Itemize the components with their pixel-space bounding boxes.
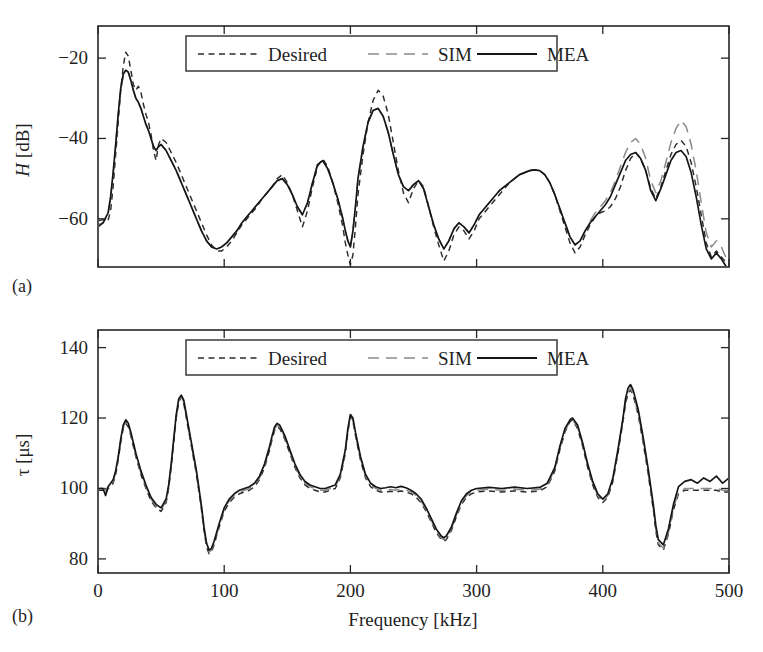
legend-panel-b: Desired SIM MEA — [186, 340, 590, 375]
panel-b-x-tick-labels: 0100200300400500 — [93, 580, 743, 601]
panel-b-tag: (b) — [12, 606, 33, 627]
y-tick-label: −60 — [58, 208, 88, 229]
panel-b-y-tick-labels: 80100120140 — [60, 337, 89, 569]
y-tick-label: 100 — [60, 477, 89, 498]
legend-a-label-sim: SIM — [438, 44, 472, 65]
legend-a-label-desired: Desired — [268, 44, 328, 65]
panel-a-y-tick-labels: −20−40−60 — [58, 47, 88, 229]
panel-b-group: 80100120140 0100200300400500 Desired SIM… — [12, 330, 743, 630]
legend-b-label-mea: MEA — [547, 348, 590, 369]
curve-desired-group-delay — [98, 390, 729, 554]
panel-b-y-axis-title: τ [μs] — [12, 434, 33, 477]
panel-a-group: −20−40−60 Desired SIM MEA H [dB] — [12, 26, 729, 297]
svg-text:τ [μs]: τ [μs] — [12, 434, 33, 477]
x-axis-title: Frequency [kHz] — [348, 609, 477, 630]
y-tick-label: 80 — [69, 548, 88, 569]
curve-sim-group-delay — [98, 388, 729, 552]
panel-a-data-curves — [98, 52, 726, 267]
figure-root: −20−40−60 Desired SIM MEA H [dB] — [0, 0, 763, 652]
curve-sim-magnitude — [98, 70, 726, 259]
y-tick-label: 120 — [60, 407, 89, 428]
panel-b-data-curves — [98, 385, 729, 554]
curve-mea-group-delay — [98, 385, 729, 551]
svg-text:H [dB]: H [dB] — [12, 123, 33, 177]
x-tick-label: 0 — [93, 580, 103, 601]
panel-b-y-axis-unit: [μs] — [12, 434, 33, 469]
curve-mea-magnitude — [98, 70, 726, 267]
legend-b-label-sim: SIM — [438, 348, 472, 369]
panel-a-y-axis-title: H [dB] — [12, 123, 33, 177]
y-tick-label: −20 — [58, 47, 88, 68]
panel-a-y-axis-symbol: H — [12, 162, 33, 178]
y-tick-label: −40 — [58, 127, 88, 148]
y-tick-label: 140 — [60, 337, 89, 358]
legend-panel-a: Desired SIM MEA — [186, 36, 590, 71]
x-tick-label: 100 — [210, 580, 239, 601]
x-tick-label: 500 — [715, 580, 744, 601]
x-tick-label: 400 — [589, 580, 618, 601]
two-panel-frequency-response-figure: −20−40−60 Desired SIM MEA H [dB] — [0, 0, 763, 652]
panel-a-tag: (a) — [12, 276, 32, 297]
curve-desired-magnitude — [98, 52, 726, 265]
legend-a-label-mea: MEA — [547, 44, 590, 65]
x-tick-label: 300 — [462, 580, 491, 601]
x-tick-label: 200 — [336, 580, 365, 601]
panel-a-y-axis-unit: [dB] — [12, 123, 33, 163]
legend-b-label-desired: Desired — [268, 348, 328, 369]
